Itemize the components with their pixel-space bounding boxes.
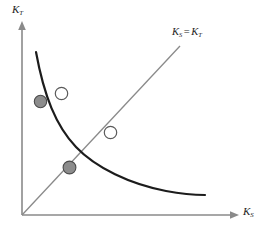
x-axis-label: KS (243, 206, 254, 217)
plot-canvas (0, 0, 264, 232)
data-point-filled-upper-left (34, 95, 46, 107)
y-axis-label: KT (12, 4, 23, 15)
data-point-filled-on-identity (63, 161, 76, 174)
data-point-open-on-identity (104, 126, 116, 138)
data-point-open-upper (55, 87, 67, 99)
x-axis-arrowhead (230, 211, 239, 219)
axes-group (18, 21, 239, 219)
identity-left-symbol: K (172, 26, 179, 37)
identity-right-subscript: T (198, 31, 202, 38)
x-axis-label-subscript: S (250, 211, 253, 218)
identity-line-label: KS=KT (172, 27, 202, 38)
figure-container: KT KS KS=KT (0, 0, 264, 232)
y-axis-label-subscript: T (19, 9, 23, 16)
data-markers (34, 87, 116, 174)
identity-left-subscript: S (179, 31, 182, 38)
identity-equals-sign: = (182, 26, 191, 37)
y-axis-arrowhead (18, 21, 26, 30)
